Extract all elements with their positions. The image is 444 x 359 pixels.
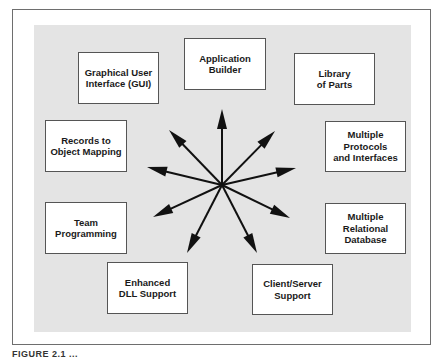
arrow-lower-right-icon — [222, 185, 290, 218]
arrow-upper-right-icon — [222, 131, 275, 185]
box-app-builder: Application Builder — [184, 38, 266, 90]
box-dll: Enhanced DLL Support — [107, 262, 188, 314]
arrow-left-icon — [147, 167, 222, 185]
arrow-upper-left-icon — [169, 130, 222, 185]
arrow-right-icon — [222, 168, 296, 185]
arrow-down-left-icon — [187, 185, 222, 253]
box-label: Library of Parts — [317, 68, 352, 91]
box-label: Application Builder — [199, 53, 251, 76]
arrow-up-icon — [217, 109, 227, 185]
box-library: Library of Parts — [294, 53, 375, 105]
arrow-down-right-icon — [222, 185, 257, 253]
box-label: Graphical User Interface (GUI) — [85, 67, 153, 90]
box-team: Team Programming — [45, 202, 127, 254]
box-records: Records to Object Mapping — [45, 120, 127, 172]
box-client-server: Client/Server Support — [252, 264, 333, 315]
figure-caption: FIGURE 2.1 ... — [12, 349, 78, 359]
box-label: Enhanced DLL Support — [119, 277, 176, 300]
box-label: Multiple Protocols and Interfaces — [333, 129, 397, 164]
box-label: Team Programming — [55, 217, 117, 240]
box-label: Client/Server Support — [263, 278, 322, 301]
box-relational: Multiple Relational Database — [325, 203, 406, 254]
box-protocols: Multiple Protocols and Interfaces — [325, 121, 406, 172]
box-label: Multiple Relational Database — [343, 211, 388, 246]
box-label: Records to Object Mapping — [50, 135, 121, 158]
box-gui: Graphical User Interface (GUI) — [78, 52, 159, 104]
arrow-lower-left-icon — [153, 185, 222, 217]
